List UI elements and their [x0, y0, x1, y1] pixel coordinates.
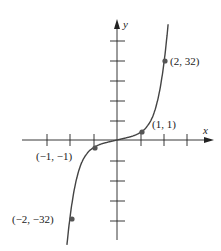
- point-1-1: [139, 129, 144, 134]
- x-axis-label: x: [202, 124, 208, 136]
- point-label-neg2-neg32: (−2, −32): [12, 213, 54, 226]
- function-curve: [67, 24, 168, 245]
- point-label-1-1: (1, 1): [152, 118, 176, 131]
- y-ticks: [110, 41, 125, 221]
- x-axis-arrow-icon: [204, 137, 214, 143]
- point-label-2-32: (2, 32): [170, 55, 200, 68]
- point-label-neg1-neg1: (−1, −1): [36, 150, 73, 163]
- point-2-32: [162, 58, 167, 63]
- y-axis-arrow-icon: [114, 19, 120, 29]
- function-graph: y x (2, 32) (1, 1) (−1, −1) (−2, −32): [0, 0, 221, 251]
- graph-canvas: y x (2, 32) (1, 1) (−1, −1) (−2, −32): [0, 0, 221, 251]
- y-axis-label: y: [122, 18, 128, 30]
- point-neg2-neg32: [69, 216, 74, 221]
- point-neg1-neg1: [92, 145, 97, 150]
